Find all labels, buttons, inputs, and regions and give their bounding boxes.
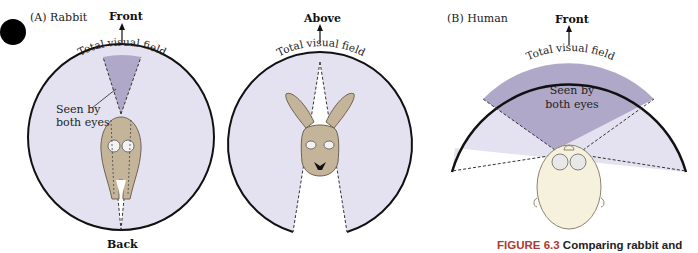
arrow-up-icon bbox=[566, 25, 572, 32]
panel-b-label: (B) Human bbox=[447, 12, 508, 25]
direction-above-rabbit: Above bbox=[304, 12, 341, 25]
binocular-label-line2: both eyes bbox=[56, 116, 110, 129]
binocular-label-line1: Seen by bbox=[56, 103, 110, 116]
human-view bbox=[452, 25, 686, 229]
binocular-label-line1: Seen by bbox=[544, 84, 600, 98]
arrow-up-icon bbox=[119, 23, 125, 30]
direction-front-rabbit: Front bbox=[109, 10, 143, 23]
bullet-marker bbox=[0, 19, 26, 45]
human-head-icon bbox=[537, 145, 601, 229]
figure-caption: FIGURE 6.3 Comparing rabbit and bbox=[497, 239, 682, 251]
human-eye-right-icon bbox=[570, 154, 586, 170]
arc-label-human: Total visual field bbox=[524, 41, 617, 62]
human-eye-left-icon bbox=[552, 154, 568, 170]
binocular-label-human: Seen by both eyes bbox=[544, 84, 600, 112]
figure-caption-text: Comparing rabbit and bbox=[563, 239, 682, 251]
panel-a-label: (A) Rabbit bbox=[30, 11, 87, 24]
rabbit-front-view bbox=[228, 24, 412, 232]
binocular-label-line2: both eyes bbox=[544, 98, 600, 112]
human-nose-icon bbox=[564, 146, 574, 151]
direction-front-human: Front bbox=[555, 13, 589, 26]
rabbit-eye-right-icon bbox=[122, 140, 134, 152]
figure-number: FIGURE 6.3 bbox=[497, 239, 560, 251]
direction-back-rabbit: Back bbox=[107, 238, 138, 251]
binocular-label-rabbit: Seen by both eyes bbox=[56, 103, 110, 129]
rabbit-eye-left-icon bbox=[108, 140, 120, 152]
arrow-up-icon bbox=[317, 24, 323, 31]
